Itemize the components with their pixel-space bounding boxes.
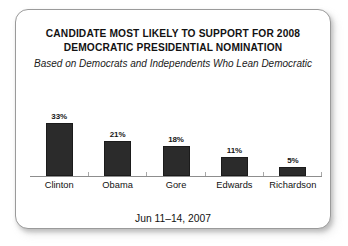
x-axis-labels: Clinton Obama Gore Edwards Richardson	[30, 180, 322, 190]
bar-value-label: 18%	[168, 135, 184, 144]
bar-slot-edwards: 11%	[205, 95, 263, 176]
bar-obama	[104, 141, 131, 176]
x-axis-label-gore: Gore	[147, 180, 205, 190]
plot-area: 33% 21% 18% 11% 5%	[30, 95, 322, 177]
x-axis-label-obama: Obama	[88, 180, 146, 190]
x-axis-label-clinton: Clinton	[30, 180, 88, 190]
axis-tick	[263, 172, 264, 176]
bar-richardson	[279, 167, 306, 176]
bar-value-label: 33%	[51, 112, 67, 121]
axis-tick	[88, 172, 89, 176]
bar-slot-obama: 21%	[88, 95, 146, 176]
bar-gore	[163, 146, 190, 176]
bar-clinton	[46, 123, 73, 176]
bar-slot-richardson: 5%	[264, 95, 322, 176]
x-axis-label-edwards: Edwards	[205, 180, 263, 190]
axis-tick	[146, 172, 147, 176]
chart-title-line-1: CANDIDATE MOST LIKELY TO SUPPORT FOR 200…	[16, 27, 330, 41]
chart-subtitle: Based on Democrats and Independents Who …	[16, 57, 330, 70]
axis-tick	[321, 172, 322, 176]
chart-title-line-2: DEMOCRATIC PRESIDENTIAL NOMINATION	[16, 41, 330, 55]
chart-footnote: Jun 11–14, 2007	[16, 213, 330, 224]
bar-series: 33% 21% 18% 11% 5%	[30, 95, 322, 176]
bar-slot-clinton: 33%	[30, 95, 88, 176]
x-axis-line	[30, 176, 322, 177]
bar-value-label: 21%	[110, 130, 126, 139]
axis-tick	[205, 172, 206, 176]
bar-slot-gore: 18%	[147, 95, 205, 176]
chart-card: CANDIDATE MOST LIKELY TO SUPPORT FOR 200…	[15, 9, 331, 229]
chart-title-block: CANDIDATE MOST LIKELY TO SUPPORT FOR 200…	[16, 27, 330, 70]
bar-value-label: 11%	[227, 146, 242, 155]
bar-edwards	[221, 157, 248, 176]
chart-screenshot: CANDIDATE MOST LIKELY TO SUPPORT FOR 200…	[0, 0, 348, 246]
x-axis-label-richardson: Richardson	[264, 180, 322, 190]
bar-value-label: 5%	[287, 156, 298, 165]
